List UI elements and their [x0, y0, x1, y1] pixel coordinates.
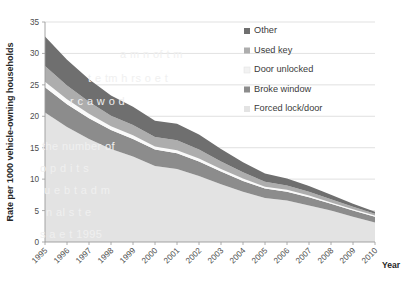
x-tick-label: 1996 — [52, 246, 72, 266]
legend-label: Used key — [254, 45, 293, 55]
x-tick-label: 1998 — [96, 246, 116, 266]
y-axis-title: Rate per 1000 vehicle-owning households — [5, 42, 15, 221]
background-watermark-line: s a e t 1995 — [40, 228, 102, 240]
y-tick-label: 25 — [30, 81, 40, 90]
x-tick-label: 2007 — [294, 246, 314, 266]
x-tick-label: 1995 — [30, 246, 50, 266]
y-axis-title-text: Rate per 1000 vehicle-owning households — [5, 42, 15, 221]
y-axis-tick-labels: 05101520253035 — [30, 18, 45, 247]
y-tick-label: 10 — [30, 175, 40, 184]
background-watermark-line: o p d i t s — [40, 162, 89, 174]
legend-swatch — [244, 87, 250, 93]
x-tick-label: 2002 — [184, 246, 204, 266]
x-tick-label: 2000 — [140, 246, 160, 266]
x-tick-label: 2004 — [228, 246, 248, 266]
background-watermark-line: a m n of t m — [120, 48, 183, 60]
background-watermark-line: u e b t a d m — [44, 184, 110, 196]
y-tick-label: 20 — [30, 112, 40, 121]
legend-swatch — [244, 28, 250, 34]
x-tick-label: 2006 — [272, 246, 292, 266]
legend-label: Broke window — [254, 84, 312, 94]
x-axis-title-text: Year — [382, 260, 401, 270]
x-tick-label: 2005 — [250, 246, 270, 266]
y-tick-label: 0 — [34, 238, 39, 247]
background-watermark-line: r c a w o d — [70, 95, 125, 107]
y-tick-label: 35 — [30, 18, 40, 27]
y-tick-label: 30 — [30, 49, 40, 58]
x-tick-label: 2001 — [162, 246, 182, 266]
background-watermark-line: n al s t e — [46, 206, 92, 218]
legend-swatch — [244, 67, 250, 73]
chart-legend: OtherUsed keyDoor unlockedBroke windowFo… — [244, 25, 322, 113]
legend-label: Door unlocked — [254, 64, 313, 74]
x-tick-label: 2003 — [206, 246, 226, 266]
x-tick-label: 2010 — [360, 246, 380, 266]
legend-label: Other — [254, 25, 277, 35]
x-tick-label: 2009 — [338, 246, 358, 266]
x-tick-label: 2008 — [316, 246, 336, 266]
x-axis-tick-labels: 1995199619971998199920002001200220032004… — [30, 242, 380, 265]
legend-swatch — [244, 48, 250, 54]
legend-swatch — [244, 106, 250, 112]
legend-label: Forced lock/door — [254, 103, 322, 113]
x-tick-label: 1997 — [74, 246, 94, 266]
x-axis-title: Year — [382, 260, 401, 270]
background-watermark-line: t e tm h rs o e t — [88, 72, 168, 84]
x-tick-label: 1999 — [118, 246, 138, 266]
background-watermark-line: the number of — [42, 140, 115, 152]
y-tick-label: 15 — [30, 144, 40, 153]
y-tick-label: 5 — [34, 207, 39, 216]
stacked-area-chart: a m n of t m t e tm h rs o e t r c a w o… — [0, 0, 417, 292]
